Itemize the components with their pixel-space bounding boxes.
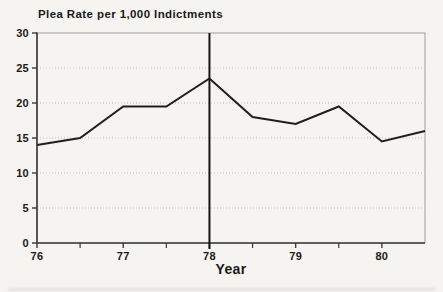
x-axis-label: Year [196, 261, 266, 277]
x-tick-label: 79 [289, 250, 302, 262]
scan-artifact [8, 288, 435, 291]
x-tick-label: 76 [31, 250, 44, 262]
plot-area: 0510152025307677787980 [0, 0, 443, 292]
x-tick-label: 80 [375, 250, 388, 262]
plea-rate-chart: Plea Rate per 1,000 Indictments 05101520… [0, 0, 443, 292]
y-tick-label: 30 [16, 27, 29, 39]
y-tick-label: 0 [23, 237, 29, 249]
y-tick-label: 15 [16, 132, 29, 144]
y-tick-label: 25 [16, 62, 29, 74]
y-tick-label: 10 [16, 167, 29, 179]
x-tick-label: 77 [117, 250, 130, 262]
y-tick-label: 5 [23, 202, 29, 214]
plot-frame [37, 33, 425, 243]
y-tick-label: 20 [16, 97, 29, 109]
plea-rate-line [37, 79, 425, 146]
